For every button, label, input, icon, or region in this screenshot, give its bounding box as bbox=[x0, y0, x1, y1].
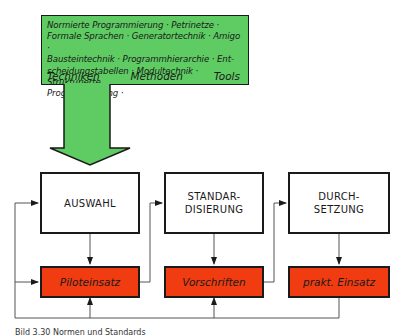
stage-title: DISIERUNG bbox=[185, 203, 243, 216]
big-down-arrow-icon bbox=[50, 84, 130, 165]
result-box-piloteinsatz: Piloteinsatz bbox=[40, 266, 140, 298]
stage-title: SETZUNG bbox=[314, 203, 364, 216]
stage-box-standardisierung: STANDAR- DISIERUNG bbox=[164, 172, 264, 234]
result-label: Vorschriften bbox=[182, 276, 245, 288]
stage-title: STANDAR- bbox=[188, 190, 241, 203]
figure-caption: Bild 3.30 Normen und Standards bbox=[15, 328, 146, 335]
stage-box-auswahl: AUSWAHL bbox=[40, 172, 140, 234]
result-label: prakt. Einsatz bbox=[303, 276, 375, 288]
result-label: Piloteinsatz bbox=[60, 276, 120, 288]
stage-title: AUSWAHL bbox=[64, 197, 116, 210]
stage-box-durchsetzung: DURCH- SETZUNG bbox=[288, 172, 390, 234]
stage-title: DURCH- bbox=[318, 190, 359, 203]
result-box-vorschriften: Vorschriften bbox=[164, 266, 264, 298]
result-box-prakt-einsatz: prakt. Einsatz bbox=[288, 266, 390, 298]
